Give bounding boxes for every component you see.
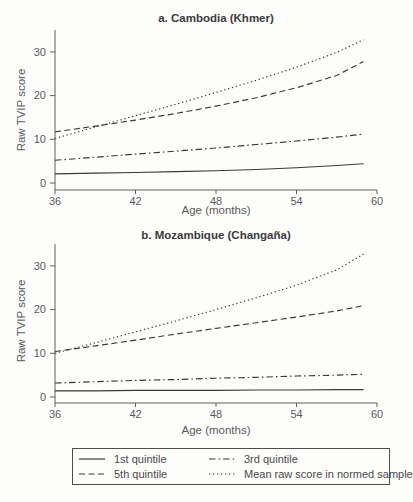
series-line-dashdot <box>55 134 364 160</box>
legend-label-mean-normed: Mean raw score in normed sample <box>244 468 413 480</box>
x-tick-label: 54 <box>290 195 302 207</box>
x-tick-label: 60 <box>371 408 383 420</box>
series-line-dotted <box>55 40 364 139</box>
y-tick-label: 30 <box>34 46 46 58</box>
x-tick-label: 42 <box>129 408 141 420</box>
chart-panel-mozambique: b. Mozambique (Changaña) Raw TVIP score … <box>0 224 398 445</box>
y-tick-label: 30 <box>34 260 46 272</box>
y-tick-label: 0 <box>40 177 46 189</box>
legend-label-3rd-quintile: 3rd quintile <box>244 453 413 465</box>
y-tick-label: 10 <box>34 347 46 359</box>
legend-line-5th-quintile-icon <box>78 470 106 478</box>
series-line-solid <box>55 390 364 391</box>
x-tick-label: 42 <box>129 195 141 207</box>
legend: 1st quintile 3rd quintile 5th quintile M… <box>72 448 390 485</box>
chart-b-plot-area: 01020303642485460 <box>0 224 398 445</box>
series-line-dashdot <box>55 374 364 383</box>
chart-a-plot-area: 01020303642485460 <box>0 0 398 224</box>
x-tick-label: 36 <box>49 195 61 207</box>
y-tick-label: 20 <box>34 89 46 101</box>
chart-b-x-axis-label: Age (months) <box>181 424 250 436</box>
y-tick-label: 20 <box>34 303 46 315</box>
series-line-dotted <box>55 254 364 353</box>
y-tick-label: 0 <box>40 391 46 403</box>
series-line-dashed <box>55 306 364 352</box>
x-tick-label: 54 <box>290 408 302 420</box>
legend-label-5th-quintile: 5th quintile <box>114 468 204 480</box>
chart-a-x-axis-label: Age (months) <box>181 204 250 216</box>
legend-line-mean-normed-icon <box>208 470 236 478</box>
series-line-dashed <box>55 62 364 132</box>
x-tick-label: 48 <box>210 408 222 420</box>
series-line-solid <box>55 164 364 174</box>
legend-line-3rd-quintile-icon <box>208 455 236 463</box>
legend-label-1st-quintile: 1st quintile <box>114 453 204 465</box>
chart-panel-cambodia: a. Cambodia (Khmer) Raw TVIP score 01020… <box>0 0 398 224</box>
x-tick-label: 60 <box>371 195 383 207</box>
legend-line-1st-quintile-icon <box>78 455 106 463</box>
x-tick-label: 36 <box>49 408 61 420</box>
y-tick-label: 10 <box>34 133 46 145</box>
